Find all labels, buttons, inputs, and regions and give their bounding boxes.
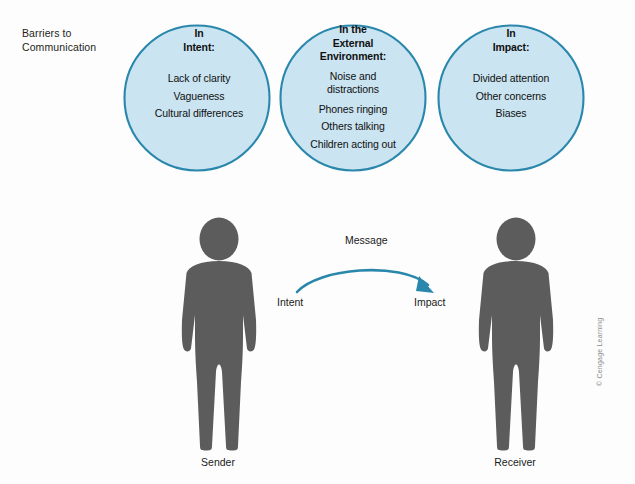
- copyright-credit: © Cengage Learning: [596, 296, 603, 386]
- receiver-label: Receiver: [465, 456, 565, 468]
- intent-label: Intent: [277, 296, 303, 308]
- sender-label: Sender: [168, 456, 268, 468]
- diagram-canvas: Barriers to Communication In Intent: Lac…: [0, 0, 635, 484]
- arrowhead-icon: [416, 276, 434, 293]
- message-arrow: [0, 0, 635, 484]
- impact-label: Impact: [414, 296, 446, 308]
- message-label: Message: [345, 234, 388, 246]
